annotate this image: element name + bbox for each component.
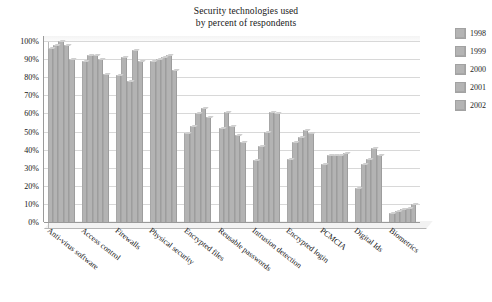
bar-group [386,41,420,222]
bar[interactable] [132,50,137,222]
legend-item-1999[interactable]: 1999 [455,46,486,57]
bar[interactable] [308,133,313,222]
bar[interactable] [258,146,263,222]
bar[interactable] [69,59,74,222]
bar[interactable] [332,155,337,222]
legend-swatch-icon [455,64,466,75]
legend-item-2002[interactable]: 2002 [455,100,486,111]
bar[interactable] [190,126,195,222]
bar[interactable] [93,55,98,222]
legend-swatch-icon [455,82,466,93]
legend-item-2000[interactable]: 2000 [455,64,486,75]
y-axis-tick-label: 60% [24,109,39,118]
y-axis-tick-label: 80% [24,73,39,82]
bar[interactable] [172,70,177,222]
x-axis-label: Biometrics [387,226,420,255]
chart-title-line-1: Security technologies used [194,6,298,16]
y-axis-tick-label: 30% [24,163,39,172]
bar[interactable] [343,153,348,222]
legend-label: 2002 [470,101,486,110]
bar[interactable] [229,126,234,222]
bar[interactable] [166,55,171,222]
chart-title: Security technologies used by percent of… [0,5,492,29]
chart-legend: 19981999200020012002 [455,28,486,111]
y-axis-tick-label: 50% [24,127,39,136]
bar-group [181,41,215,222]
x-axis-label: Digital Ids [353,226,385,254]
bar[interactable] [156,59,161,222]
legend-label: 1998 [470,29,486,38]
y-axis-tick-label: 90% [24,55,39,64]
bar[interactable] [240,142,245,222]
bar[interactable] [184,133,189,222]
legend-label: 2001 [470,83,486,92]
bar[interactable] [127,81,132,222]
bar[interactable] [303,130,308,222]
chart-title-line-2: by percent of respondents [0,17,492,29]
bar[interactable] [269,112,274,222]
y-axis-tick-label: 10% [24,199,39,208]
bar-group [352,41,386,222]
bar[interactable] [321,164,326,222]
bar-groups [44,41,420,222]
bar-group [78,41,112,222]
y-axis-tick-label: 40% [24,145,39,154]
bar[interactable] [195,113,200,222]
bar[interactable] [201,108,206,222]
bar[interactable] [298,137,303,222]
bar[interactable] [206,117,211,222]
x-axis-labels: Anti-virus softwareAccess controlFirewal… [44,226,420,298]
bar[interactable] [355,188,360,222]
bar-group [147,41,181,222]
legend-swatch-icon [455,46,466,57]
bar-group [318,41,352,222]
legend-label: 1999 [470,47,486,56]
bar[interactable] [292,142,297,222]
y-axis-tick-label: 70% [24,91,39,100]
bar[interactable] [53,45,58,222]
bar-group [249,41,283,222]
y-axis-tick-label: 100% [20,37,39,46]
bar[interactable] [366,159,371,222]
bar[interactable] [235,135,240,222]
bar-group [215,41,249,222]
bar[interactable] [337,155,342,222]
chart-container: Security technologies used by percent of… [0,0,492,302]
legend-swatch-icon [455,28,466,39]
bar-group [283,41,317,222]
bar[interactable] [219,128,224,222]
legend-label: 2000 [470,65,486,74]
bar[interactable] [98,59,103,222]
x-axis-label: PCMCIA [319,226,349,252]
bar[interactable] [274,113,279,222]
legend-item-2001[interactable]: 2001 [455,82,486,93]
gridline-0 [44,222,420,223]
bar-group [44,41,78,222]
y-axis-tick-label: 20% [24,181,39,190]
bar[interactable] [377,155,382,222]
bar[interactable] [138,61,143,222]
bar[interactable] [389,213,394,222]
bar[interactable] [121,57,126,222]
bar[interactable] [253,160,258,222]
bar[interactable] [82,61,87,222]
bar[interactable] [150,61,155,222]
bar[interactable] [87,55,92,222]
plot-area: 100%90%80%70%60%50%40%30%20%10%0% [44,41,420,222]
bar[interactable] [327,155,332,222]
bar[interactable] [58,41,63,222]
bar[interactable] [161,57,166,222]
bar[interactable] [116,75,121,222]
bar[interactable] [103,74,108,222]
legend-swatch-icon [455,100,466,111]
bar[interactable] [287,159,292,222]
bar-group [112,41,146,222]
bar[interactable] [361,164,366,222]
y-axis-tick-label: 0% [28,218,39,227]
legend-item-1998[interactable]: 1998 [455,28,486,39]
bar[interactable] [48,48,53,222]
x-axis-label: Firewalls [114,226,143,251]
bar[interactable] [64,45,69,222]
